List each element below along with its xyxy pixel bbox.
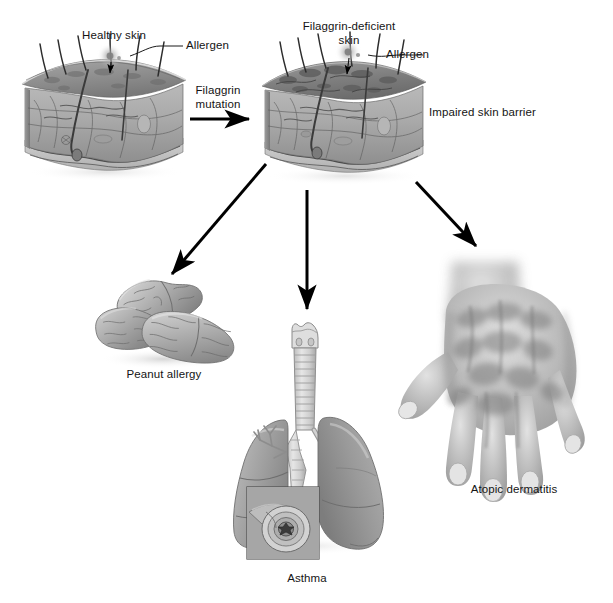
atopic-dermatitis-illustration	[395, 262, 585, 502]
label-impaired-skin-barrier: Impaired skin barrier	[429, 106, 569, 120]
label-asthma: Asthma	[272, 572, 342, 586]
illustration-svg	[0, 0, 613, 603]
label-filaggrin-mutation: Filaggrin mutation	[182, 84, 254, 111]
arrow-to-atopic-dermatitis	[416, 182, 476, 246]
arrow-to-peanut-allergy	[172, 164, 266, 274]
peanut-allergy-illustration	[94, 262, 238, 369]
label-peanut-allergy: Peanut allergy	[108, 368, 220, 382]
healthy-skin-block	[22, 34, 186, 181]
label-allergen-left: Allergen	[186, 39, 256, 53]
label-filaggrin-deficient-skin: Filaggrin-deficient skin	[287, 20, 411, 47]
figure-canvas: Healthy skin Allergen Filaggrin mutation…	[0, 0, 613, 603]
label-allergen-right: Allergen	[386, 48, 456, 62]
asthma-illustration	[233, 323, 384, 559]
label-healthy-skin: Healthy skin	[60, 29, 168, 43]
bronchiole-inset	[247, 487, 319, 559]
label-atopic-dermatitis: Atopic dermatitis	[444, 483, 584, 497]
